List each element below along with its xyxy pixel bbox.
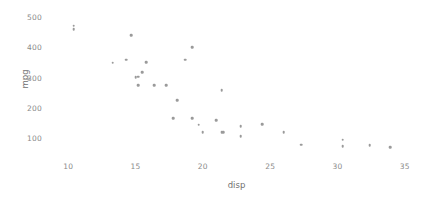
data-point (300, 143, 303, 146)
data-point (130, 34, 133, 37)
data-point (165, 84, 168, 87)
y-tick-label: 500 (20, 13, 42, 22)
data-point (202, 131, 205, 134)
data-point (172, 117, 175, 120)
data-point (145, 61, 148, 64)
data-point (368, 144, 371, 147)
data-point (137, 84, 140, 87)
x-axis-title: disp (197, 180, 277, 190)
data-point (215, 119, 218, 122)
data-point (239, 125, 242, 128)
y-axis-title: mpg (20, 65, 30, 93)
data-point (222, 131, 225, 134)
y-tick-label: 200 (20, 104, 42, 113)
scatter-plot-area: 100200300400500101520253035mpgdisp (0, 0, 435, 202)
data-point (261, 123, 264, 126)
data-point (389, 146, 392, 149)
data-point (342, 145, 345, 148)
y-tick-label: 100 (20, 134, 42, 143)
data-point (137, 75, 140, 78)
x-tick-label: 35 (400, 162, 410, 171)
data-point (72, 28, 75, 31)
data-point (198, 123, 201, 126)
chart-screenshot: 100200300400500101520253035mpgdisp (0, 0, 435, 202)
x-tick-label: 20 (198, 162, 208, 171)
data-point (184, 58, 187, 61)
x-tick-label: 15 (131, 162, 141, 171)
data-point (239, 135, 242, 138)
data-point (342, 139, 345, 142)
data-point (111, 61, 114, 64)
data-point (176, 99, 179, 102)
data-point (153, 84, 156, 87)
x-tick-label: 10 (63, 162, 73, 171)
data-point (141, 71, 144, 74)
data-point (72, 24, 75, 27)
data-point (125, 58, 128, 61)
data-point (191, 117, 194, 120)
x-tick-label: 25 (265, 162, 275, 171)
data-point (191, 46, 194, 49)
data-point (282, 131, 285, 134)
x-tick-label: 30 (332, 162, 342, 171)
data-point (220, 89, 223, 92)
y-tick-label: 400 (20, 43, 42, 52)
